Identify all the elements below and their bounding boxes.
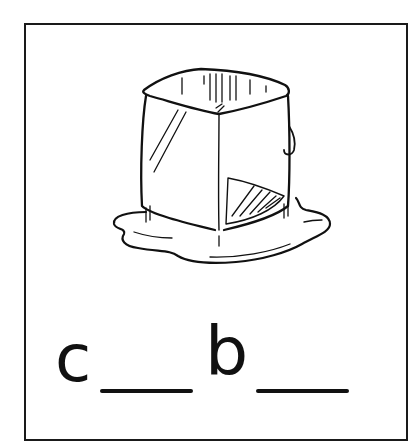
- letter-b: b: [205, 318, 248, 386]
- blank-line-2[interactable]: [256, 389, 349, 393]
- blank-line-1[interactable]: [100, 389, 193, 393]
- letter-c: c: [55, 326, 91, 392]
- word-puzzle: c b: [0, 0, 417, 446]
